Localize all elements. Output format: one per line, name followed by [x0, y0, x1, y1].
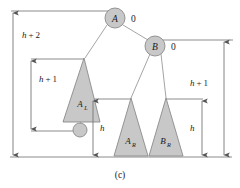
subtree-label-ar: A [124, 136, 131, 146]
node-balance-b: 0 [171, 42, 176, 52]
subtree-sub-al: L [83, 104, 88, 111]
node-label-b: B [152, 42, 158, 52]
node-circle-new [73, 123, 87, 137]
measure-label-right-h-plus-1-num: 1 [204, 78, 209, 88]
figure-container: A 0 B 0 A L A R B R h+2 h+1 h h h+1 (c) [0, 0, 240, 188]
subtree-triangle-al [63, 58, 100, 122]
avl-rotation-diagram: A 0 B 0 A L A R B R h+2 h+1 h h h+1 (c) [0, 0, 240, 188]
measure-label-left-h-plus-1-h: h [39, 74, 44, 84]
measure-label-h-plus-2-op: + [29, 30, 34, 40]
subtree-triangle-ar [114, 98, 148, 156]
measure-label-h-plus-2: h+2 [22, 30, 40, 40]
measure-label-right-h-plus-1-h: h [190, 78, 195, 88]
measure-label-left-h-plus-1-op: + [46, 74, 51, 84]
figure-caption: (c) [115, 170, 126, 181]
measure-label-left-h-plus-1-num: 1 [53, 74, 58, 84]
subtree-sub-br: R [166, 141, 171, 148]
measure-label-left-h-plus-1: h+1 [39, 74, 57, 84]
measure-label-h-plus-2-num: 2 [36, 30, 41, 40]
subtree-label-br: B [160, 136, 166, 146]
edge-a-to-al [85, 25, 107, 58]
subtree-triangle-br [149, 98, 183, 156]
measure-label-h-plus-2-h: h [22, 30, 27, 40]
node-label-a: A [111, 14, 118, 24]
measure-label-right-h-plus-1: h+1 [190, 78, 208, 88]
edge-b-to-br [161, 54, 166, 98]
node-balance-a: 0 [131, 14, 136, 24]
edge-b-to-ar [131, 54, 150, 98]
measure-label-right-h-plus-1-op: + [197, 78, 202, 88]
edge-a-to-b [123, 25, 148, 40]
subtree-label-al: A [76, 99, 83, 109]
measure-label-right-h: h [190, 123, 195, 133]
subtree-sub-ar: R [131, 141, 136, 148]
measure-label-middle-h: h [100, 123, 105, 133]
